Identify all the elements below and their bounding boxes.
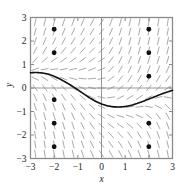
slope-field-figure: −3−2−10123−3−2−10123 xy xyxy=(0,0,185,185)
tick-labels: −3−2−10123−3−2−10123 xyxy=(16,13,175,172)
y-tick-label: 0 xyxy=(22,83,27,93)
x-tick-label: 0 xyxy=(99,162,104,172)
x-tick-label: −1 xyxy=(73,162,83,172)
y-tick-label: 2 xyxy=(22,36,27,46)
x-axis-title: x xyxy=(98,174,104,184)
x-tick-label: 1 xyxy=(123,162,128,172)
axes-lines xyxy=(31,18,173,159)
y-tick-label: −2 xyxy=(16,130,26,140)
y-tick-label: −3 xyxy=(16,154,26,164)
x-tick-label: −3 xyxy=(25,162,35,172)
y-axis-title: y xyxy=(4,82,14,88)
x-tick-label: 3 xyxy=(170,162,175,172)
y-tick-label: 3 xyxy=(22,13,27,23)
plot-canvas: −3−2−10123−3−2−10123 xy xyxy=(0,0,185,185)
x-tick-label: 2 xyxy=(146,162,151,172)
x-tick-label: −2 xyxy=(49,162,59,172)
y-tick-label: −1 xyxy=(16,107,26,117)
y-tick-label: 1 xyxy=(22,60,27,70)
